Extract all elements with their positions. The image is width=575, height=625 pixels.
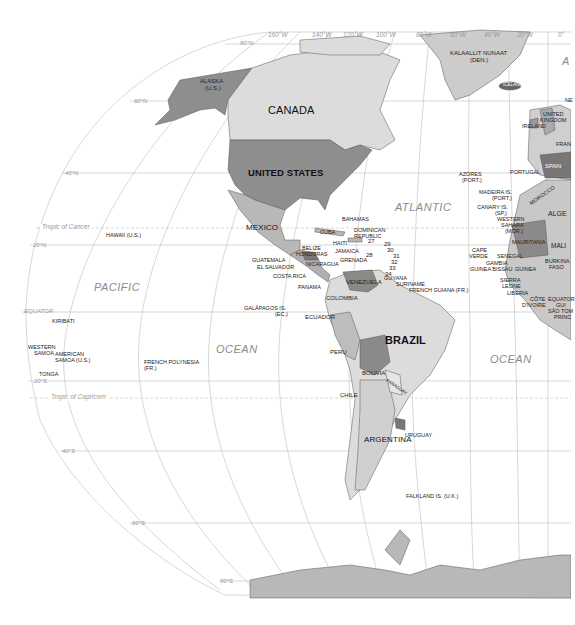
lat-80s: 80°S: [220, 578, 233, 584]
label-colombia: COLOMBIA: [326, 295, 358, 301]
label-guinea: GUINEA: [515, 267, 536, 273]
canada-shape: [228, 48, 400, 150]
label-haiti: HAITI: [333, 241, 347, 247]
label-bolivia: BOLIVIA: [362, 370, 385, 376]
label-mexico: MEXICO: [246, 224, 278, 232]
label-grenada: GRENADA: [340, 258, 367, 264]
label-kiribati: KIRIBATI: [52, 319, 75, 325]
label-madeira-2: (PORT.): [492, 196, 512, 202]
label-greenland-sub: (DEN.): [470, 57, 488, 63]
label-burkina-2: FASO: [549, 265, 564, 271]
label-western-sahara-3: (MOR.): [505, 229, 523, 235]
label-spain: SPAIN: [545, 164, 561, 170]
ocean-pacific-label: PACIFIC: [94, 282, 140, 294]
caribbean-number-34: 34: [385, 271, 392, 277]
label-honduras: HONDURAS: [296, 252, 327, 258]
tropic-of-cancer-label: Tropic of Cancer: [40, 224, 92, 231]
label-algeria: ALGE: [548, 210, 567, 217]
lon-0: 0°: [558, 31, 565, 38]
ocean-atlantic-partial-label: A: [562, 56, 570, 68]
lon-160w: 160°W: [268, 31, 288, 38]
label-iceland: ICELAND: [503, 83, 523, 88]
label-cote-divoire-2: D'IVOIRE: [522, 303, 546, 309]
label-hawaii: HAWAII (U.S.): [106, 233, 141, 239]
label-cuba: CUBA: [320, 230, 335, 236]
label-sierra-leone-2: LEONE: [502, 284, 521, 290]
label-sao-tome-2: PRINC: [554, 315, 571, 321]
label-chile: CHILE: [340, 392, 358, 398]
label-canary-2: (SP.): [495, 211, 507, 217]
label-french-polynesia-2: (FR.): [144, 366, 157, 372]
tropic-of-capricorn-label: Tropic of Capricorn: [49, 394, 108, 401]
lat-40n: 40°N: [65, 170, 78, 176]
label-guatemala: GUATEMALA: [252, 258, 286, 264]
label-costa-rica: COSTA RICA: [273, 274, 306, 280]
label-canada: CANADA: [268, 105, 314, 117]
label-panama: PANAMA: [298, 285, 321, 291]
lon-60w: 60°W: [450, 31, 467, 38]
lon-20w: 20°W: [516, 31, 534, 38]
label-senegal: SENEGAL: [497, 254, 523, 260]
label-el-salvador: EL SALVADOR: [257, 265, 294, 271]
lon-140w: 140°W: [312, 31, 332, 38]
lon-100w: 100°W: [376, 31, 396, 38]
label-guinea-bissau: GUINEA BISSAU: [470, 267, 513, 273]
lon-120w: 120°W: [343, 31, 363, 38]
lat-80n: 80°N: [240, 40, 253, 46]
label-nicaragua: NICARAGUA: [306, 262, 339, 268]
label-mauritania: MAURITANIA: [512, 240, 546, 246]
ocean-atlantic-ocean-label: OCEAN: [490, 354, 532, 366]
label-ireland: IRELAND: [522, 124, 546, 130]
label-cape-verde-2: VERDE: [469, 254, 488, 260]
label-united-states: UNITED STATES: [248, 168, 323, 178]
label-uk-2: KINGDOM: [540, 118, 566, 124]
lat-60n: 60°N: [134, 98, 147, 104]
label-western-samoa-2: SAMOA: [34, 351, 54, 357]
label-uruguay: URUGUAY: [405, 433, 432, 439]
label-bahamas: BAHAMAS: [342, 217, 369, 223]
label-n-partial: NE: [565, 98, 573, 104]
label-ecuador: ECUADOR: [305, 314, 335, 320]
label-falkland: FALKLAND IS. (U.K.): [406, 494, 458, 500]
label-alaska-sub: (U.S.): [205, 85, 221, 91]
ocean-atlantic-label: ATLANTIC: [395, 202, 451, 214]
label-american-samoa-2: SAMOA (U.S.): [55, 358, 90, 364]
label-brazil: BRAZIL: [385, 335, 426, 347]
lon-80w: 80°W: [416, 31, 433, 38]
label-greenland: KALAALLIT NUNAAT: [450, 50, 507, 56]
label-galapagos-2: (EC.): [275, 312, 288, 318]
antarctica-shape: [250, 555, 571, 598]
label-mali: MALI: [551, 243, 566, 250]
label-tonga: TONGA: [39, 372, 58, 378]
caribbean-number-27: 27: [368, 238, 375, 244]
label-alaska: ALASKA: [200, 78, 223, 84]
ocean-pacific-ocean-label: OCEAN: [216, 344, 258, 356]
lat-20n: 20°N: [33, 242, 46, 248]
lat-40s: 40°S: [62, 448, 75, 454]
label-france: FRAN: [556, 142, 571, 148]
label-french-guiana: FRENCH GUIANA (FR.): [409, 288, 468, 294]
caribbean-number-28: 28: [366, 252, 373, 258]
label-azores-2: (PORT.): [462, 178, 482, 184]
lon-40w: 40°W: [484, 31, 501, 38]
uruguay-shape: [395, 418, 405, 430]
label-venezuela: VENEZUELA: [346, 279, 382, 285]
longitude-labels: 160°W 140°W 120°W 100°W 80°W 60°W 40°W 2…: [268, 31, 565, 38]
label-jamaica: JAMAICA: [335, 249, 359, 255]
lat-equator: EQUATOR: [24, 308, 53, 314]
label-peru: PERU: [330, 349, 347, 355]
lat-20s: 20°S: [34, 378, 47, 384]
label-portugal: PORTUGAL: [510, 170, 540, 176]
label-liberia: LIBERIA: [507, 291, 528, 297]
lat-60s: 60°S: [132, 520, 145, 526]
